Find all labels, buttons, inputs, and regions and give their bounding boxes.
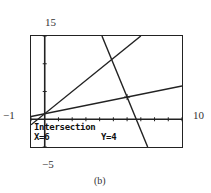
calculator-screen: Intersection X=6 Y=4 (30, 35, 183, 148)
x-max-label: 10 (193, 109, 204, 121)
intersection-title: Intersection (34, 123, 95, 132)
x-readout: X=6 (34, 133, 49, 142)
y-max-label: 15 (45, 16, 56, 28)
y-min-label: −5 (42, 158, 54, 170)
y-readout: Y=4 (101, 133, 116, 142)
series-line-3 (102, 36, 148, 147)
series-line-2 (31, 86, 182, 117)
series-line-1 (31, 36, 141, 125)
x-min-label: −1 (3, 109, 15, 121)
figure-caption: (b) (94, 175, 106, 186)
